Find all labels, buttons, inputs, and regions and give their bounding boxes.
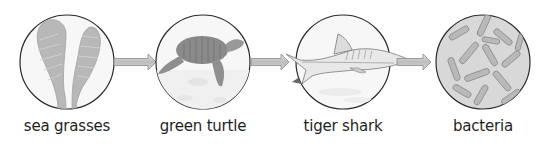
arrow-2 [251, 54, 289, 70]
label-green-turtle: green turtle [138, 117, 268, 135]
node-circle [20, 15, 114, 109]
label-sea-grasses: sea grasses [2, 117, 132, 135]
node-sea-grasses [20, 15, 114, 110]
node-green-turtle [150, 15, 260, 115]
arrow-1 [114, 54, 156, 70]
label-bacteria: bacteria [418, 117, 548, 135]
node-tiger-shark [286, 15, 410, 109]
node-bacteria [436, 13, 530, 109]
label-tiger-shark: tiger shark [278, 117, 408, 135]
